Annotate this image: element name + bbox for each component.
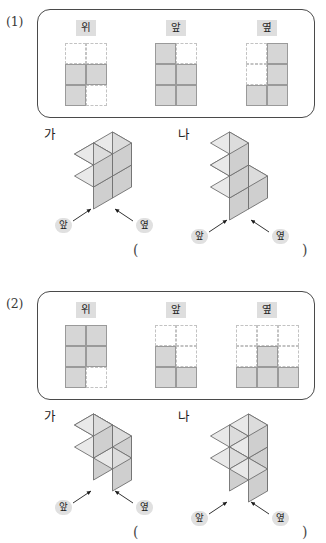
view-grid [246, 43, 288, 106]
side-direction-label: 옆 [136, 500, 153, 515]
view-side: 옆 [223, 298, 311, 388]
view-grid [155, 325, 197, 388]
view-top: 위 [42, 298, 130, 388]
grid-cell-empty [278, 325, 299, 346]
grid-cell-empty [176, 43, 197, 64]
grid-cell-filled [65, 64, 86, 85]
grid-cell-filled [155, 43, 176, 64]
view-label-top: 위 [76, 20, 96, 36]
views-panel: 위앞옆 [37, 291, 315, 400]
grid-cell-empty [176, 346, 197, 367]
grid-cell-empty [257, 325, 278, 346]
view-grid [65, 43, 107, 106]
grid-cell-filled [155, 346, 176, 367]
answer-row: () [0, 242, 326, 264]
view-side: 옆 [223, 16, 311, 106]
grid-cell-filled [246, 85, 267, 106]
grid-cell-empty [86, 367, 107, 388]
view-grid [65, 325, 107, 388]
problem-number: (2) [6, 296, 23, 311]
views-panel: 위앞옆 [37, 9, 315, 118]
view-front: 앞 [132, 298, 220, 388]
view-grid [155, 43, 197, 106]
grid-cell-empty [176, 325, 197, 346]
answer-input[interactable] [145, 242, 295, 260]
figures-row: 가앞옆나앞옆 [0, 400, 326, 525]
view-label-front: 앞 [166, 302, 186, 318]
views-row: 위앞옆 [38, 292, 314, 399]
grid-cell-empty [86, 85, 107, 106]
grid-cell-filled [257, 346, 278, 367]
grid-cell-empty [86, 43, 107, 64]
grid-cell-filled [155, 85, 176, 106]
grid-cell-filled [267, 64, 288, 85]
figure-나: 나앞옆 [160, 118, 310, 243]
grid-cell-empty [65, 43, 86, 64]
view-grid [236, 325, 299, 388]
answer-paren-open: ( [133, 242, 138, 258]
grid-cell-empty [246, 64, 267, 85]
side-direction-label: 옆 [136, 218, 153, 233]
grid-cell-filled [86, 64, 107, 85]
grid-cell-filled [65, 325, 86, 346]
view-label-front: 앞 [166, 20, 186, 36]
problem-number: (1) [6, 14, 23, 29]
figure-나: 나앞옆 [160, 400, 310, 525]
grid-cell-filled [155, 367, 176, 388]
figures-row: 가앞옆나앞옆 [0, 118, 326, 243]
answer-input[interactable] [145, 524, 295, 542]
grid-cell-empty [155, 325, 176, 346]
grid-cell-filled [86, 346, 107, 367]
view-label-side: 옆 [257, 20, 277, 36]
view-label-side: 옆 [257, 302, 277, 318]
grid-cell-filled [65, 367, 86, 388]
grid-cell-filled [155, 64, 176, 85]
figure-가: 가앞옆 [24, 118, 174, 243]
grid-cell-filled [65, 85, 86, 106]
figure-가: 가앞옆 [24, 400, 174, 525]
answer-paren-close: ) [302, 524, 307, 540]
grid-cell-filled [176, 367, 197, 388]
grid-cell-empty [278, 346, 299, 367]
grid-cell-filled [65, 346, 86, 367]
grid-cell-empty [246, 43, 267, 64]
grid-cell-filled [176, 85, 197, 106]
front-direction-label: 앞 [55, 218, 72, 233]
grid-cell-filled [267, 43, 288, 64]
answer-row: () [0, 524, 326, 543]
grid-cell-filled [257, 367, 278, 388]
grid-cell-empty [236, 325, 257, 346]
answer-paren-open: ( [133, 524, 138, 540]
grid-cell-filled [278, 367, 299, 388]
view-front: 앞 [132, 16, 220, 106]
front-direction-label: 앞 [55, 500, 72, 515]
view-top: 위 [42, 16, 130, 106]
cube-solid-drawing [160, 400, 310, 525]
grid-cell-filled [86, 325, 107, 346]
grid-cell-filled [236, 367, 257, 388]
grid-cell-filled [267, 85, 288, 106]
answer-paren-close: ) [302, 242, 307, 258]
grid-cell-empty [236, 346, 257, 367]
cube-solid-drawing [160, 118, 310, 243]
views-row: 위앞옆 [38, 10, 314, 117]
view-label-top: 위 [76, 302, 96, 318]
grid-cell-filled [176, 64, 197, 85]
